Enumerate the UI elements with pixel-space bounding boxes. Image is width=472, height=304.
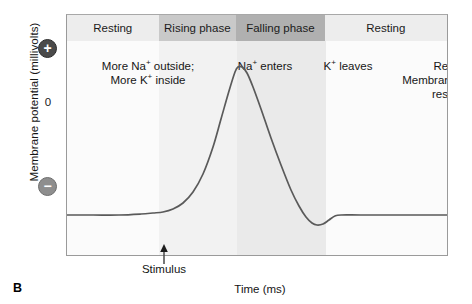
action-potential-trace (67, 15, 448, 256)
stimulus-label: Stimulus (126, 263, 202, 275)
positive-polarity-icon: + (38, 39, 57, 58)
stimulus-arrow-icon (150, 243, 178, 265)
negative-polarity-icon: − (38, 177, 57, 196)
panel-letter: B (13, 281, 22, 295)
plus-glyph: + (39, 40, 56, 57)
minus-glyph: − (39, 178, 56, 195)
plot-area: Resting Rising phase Falling phase Resti… (66, 14, 448, 256)
y-axis-zero-tick-label: 0 (40, 96, 56, 108)
x-axis-title: Time (ms) (195, 283, 325, 295)
y-axis-title: Membrane potential (millivolts) (28, 2, 40, 202)
trace-path (67, 66, 448, 225)
